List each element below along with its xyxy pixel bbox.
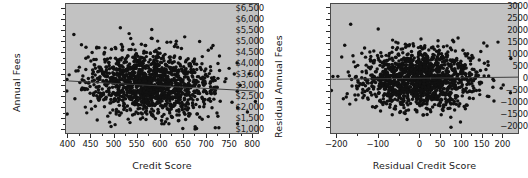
y-tick-mark: [61, 63, 65, 64]
y-tick-label: 1500: [469, 38, 528, 47]
y-tick-mark: [61, 96, 65, 97]
x-tick-minor: [79, 134, 80, 136]
y-tick-label: 500: [469, 62, 528, 71]
y-tick-label: $3,000: [206, 81, 264, 90]
y-tick-label: $5,500: [206, 26, 264, 35]
y-tick-label: −2000: [469, 122, 528, 131]
y-tick-minor: [63, 91, 65, 92]
y-axis-title-left: Annual Fees: [11, 53, 22, 112]
y-tick-minor: [63, 14, 65, 15]
y-tick-label: 3000: [469, 2, 528, 11]
x-tick-mark: [482, 134, 483, 138]
x-tick-minor: [217, 134, 218, 136]
y-tick-mark: [326, 127, 330, 128]
x-tick-minor: [471, 134, 472, 136]
x-tick-minor: [430, 134, 431, 136]
x-tick-mark: [137, 134, 138, 138]
y-tick-minor: [328, 97, 330, 98]
y-tick-mark: [61, 74, 65, 75]
y-tick-minor: [328, 73, 330, 74]
y-tick-minor: [63, 25, 65, 26]
x-tick-mark: [502, 134, 503, 138]
y-tick-mark: [326, 7, 330, 8]
x-tick-minor: [148, 134, 149, 136]
x-tick-label: −200: [316, 140, 356, 149]
x-tick-mark: [336, 134, 337, 138]
y-tick-label: 2500: [469, 14, 528, 23]
x-tick-minor: [125, 134, 126, 136]
y-tick-label: $5,000: [206, 37, 264, 46]
y-tick-minor: [328, 25, 330, 26]
x-tick-mark: [114, 134, 115, 138]
y-tick-minor: [63, 58, 65, 59]
x-tick-mark: [252, 134, 253, 138]
x-tick-minor: [241, 134, 242, 136]
y-tick-mark: [326, 67, 330, 68]
x-tick-mark: [90, 134, 91, 138]
y-tick-label: 0: [469, 74, 528, 83]
y-tick-label: −1000: [469, 98, 528, 107]
y-tick-mark: [61, 8, 65, 9]
y-tick-minor: [328, 13, 330, 14]
y-tick-mark: [326, 43, 330, 44]
x-tick-minor: [357, 134, 358, 136]
y-tick-minor: [63, 36, 65, 37]
y-tick-minor: [328, 109, 330, 110]
x-axis-title-left: Credit Score: [35, 160, 289, 171]
scatter-panel-residuals: Residual Annual Fees −2000−1500−1000−500…: [264, 0, 528, 178]
x-tick-mark: [67, 134, 68, 138]
x-tick-mark: [378, 134, 379, 138]
x-tick-mark: [461, 134, 462, 138]
x-tick-mark: [440, 134, 441, 138]
y-tick-label: $4,500: [206, 48, 264, 57]
y-tick-label: $1,000: [206, 125, 264, 134]
y-tick-minor: [328, 85, 330, 86]
x-tick-mark: [183, 134, 184, 138]
y-tick-label: $2,000: [206, 103, 264, 112]
x-tick-label: −100: [358, 140, 398, 149]
y-tick-minor: [63, 124, 65, 125]
y-tick-mark: [326, 19, 330, 20]
x-tick-mark: [206, 134, 207, 138]
x-tick-label: 200: [482, 140, 522, 149]
y-tick-minor: [63, 69, 65, 70]
y-tick-label: −1500: [469, 110, 528, 119]
y-tick-minor: [328, 121, 330, 122]
y-tick-mark: [61, 118, 65, 119]
x-tick-mark: [160, 134, 161, 138]
y-tick-mark: [61, 30, 65, 31]
y-tick-mark: [326, 55, 330, 56]
y-tick-minor: [63, 47, 65, 48]
y-tick-mark: [326, 115, 330, 116]
y-tick-mark: [61, 129, 65, 130]
x-tick-minor: [399, 134, 400, 136]
x-tick-minor: [492, 134, 493, 136]
y-tick-mark: [61, 85, 65, 86]
y-tick-minor: [328, 61, 330, 62]
scatter-panel-annual-fees: Annual Fees $1,000$1,500$2,000$2,500$3,0…: [0, 0, 264, 178]
y-tick-label: $4,000: [206, 59, 264, 68]
y-tick-label: 2000: [469, 26, 528, 35]
y-tick-mark: [326, 91, 330, 92]
y-tick-label: $3,500: [206, 70, 264, 79]
y-tick-label: $6,000: [206, 15, 264, 24]
y-tick-mark: [61, 52, 65, 53]
y-tick-minor: [328, 37, 330, 38]
y-tick-mark: [61, 19, 65, 20]
y-tick-label: $2,500: [206, 92, 264, 101]
y-tick-mark: [61, 107, 65, 108]
x-axis-title-right: Residual Credit Score: [300, 160, 528, 171]
y-tick-mark: [326, 103, 330, 104]
y-axis-title-right: Residual Annual Fees: [273, 35, 284, 138]
y-tick-label: $1,500: [206, 114, 264, 123]
y-tick-mark: [326, 31, 330, 32]
y-tick-minor: [63, 80, 65, 81]
y-tick-mark: [61, 41, 65, 42]
y-tick-mark: [326, 79, 330, 80]
y-tick-label: $6,500: [206, 4, 264, 13]
x-tick-minor: [102, 134, 103, 136]
x-tick-mark: [419, 134, 420, 138]
y-tick-label: −500: [469, 86, 528, 95]
x-tick-minor: [194, 134, 195, 136]
y-tick-minor: [328, 49, 330, 50]
